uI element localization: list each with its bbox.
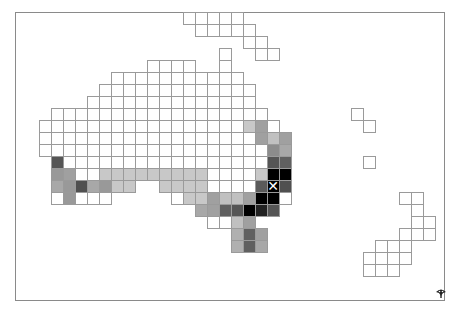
pacific-islands-cell[interactable] [363, 156, 376, 169]
tree-logo-icon [435, 287, 447, 299]
pacific-islands-cell[interactable] [363, 120, 376, 133]
australia-cell[interactable] [99, 192, 112, 205]
australia-cell[interactable] [255, 240, 268, 253]
australia-cell[interactable] [267, 204, 280, 217]
australia-cell[interactable] [123, 180, 136, 193]
new-guinea-cell[interactable] [267, 48, 280, 61]
new-zealand-cell[interactable] [423, 228, 436, 241]
new-zealand-cell[interactable] [387, 264, 400, 277]
australia-cell[interactable] [279, 192, 292, 205]
location-marker-icon[interactable]: ✕ [267, 180, 279, 192]
heatmap-grid [0, 0, 462, 315]
new-zealand-cell[interactable] [399, 252, 412, 265]
